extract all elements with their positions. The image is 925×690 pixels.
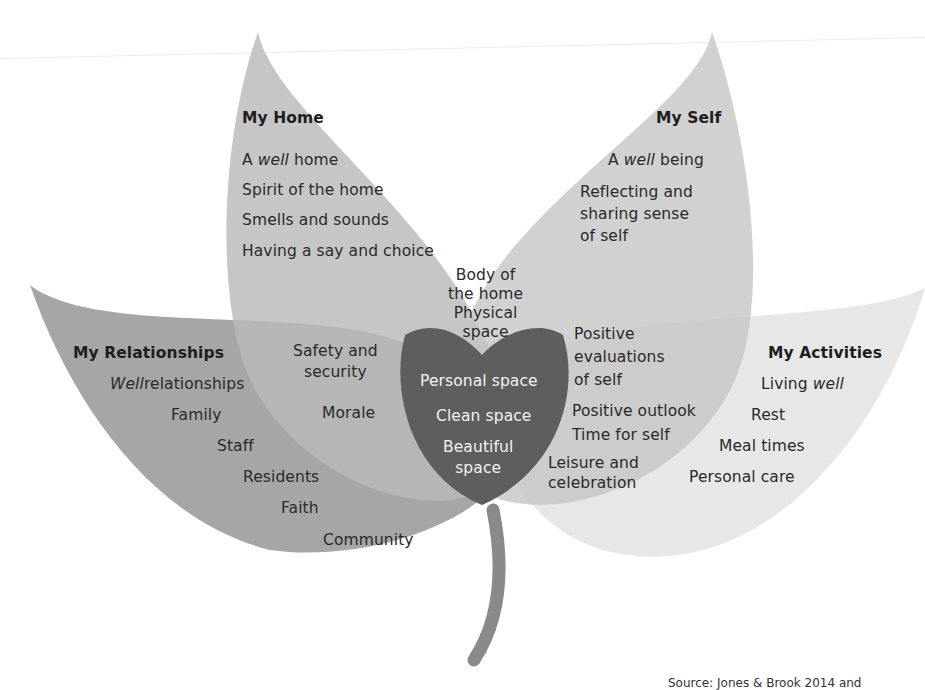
relationships-item: Community — [323, 531, 414, 549]
center-item: Personal space — [420, 372, 538, 390]
activities-item: Rest — [751, 406, 785, 424]
emphasis: well — [624, 151, 655, 169]
activities-item-living-well: Living well — [761, 375, 844, 393]
center-item: Beautiful space — [443, 437, 513, 479]
text: home — [289, 151, 338, 169]
emphasis: Well — [110, 375, 144, 393]
stem — [474, 510, 499, 660]
self-activities-overlap-text: Leisure and celebration — [548, 453, 639, 493]
relationships-item: Staff — [217, 437, 254, 455]
self-title: My Self — [656, 109, 721, 127]
self-activities-overlap-text: Positive evaluations of self — [574, 323, 665, 392]
text: relationships — [144, 375, 244, 393]
self-item: Reflecting and sharing sense of self — [580, 181, 693, 247]
text: Living — [761, 375, 813, 393]
text: A — [242, 151, 258, 169]
self-activities-overlap-text: Positive outlook — [572, 402, 696, 420]
home-item: Having a say and choice — [242, 242, 434, 260]
activities-item: Personal care — [689, 468, 795, 486]
text: being — [655, 151, 704, 169]
relationships-item-well: Wellrelationships — [110, 375, 244, 393]
emphasis: well — [258, 151, 289, 169]
relationships-item: Residents — [243, 468, 319, 486]
activities-item: Meal times — [719, 437, 805, 455]
activities-title: My Activities — [768, 344, 882, 362]
relationships-title: My Relationships — [73, 344, 224, 362]
home-item-well-home: A well home — [242, 151, 338, 169]
home-item: Spirit of the home — [242, 181, 384, 199]
home-title: My Home — [242, 109, 324, 127]
home-item: Smells and sounds — [242, 211, 389, 229]
home-self-overlap-text: Body of the home Physical space — [448, 266, 523, 342]
relationships-item: Faith — [281, 499, 319, 517]
relationships-item: Family — [171, 406, 221, 424]
home-relationships-overlap-text: Safety and security — [293, 341, 378, 383]
emphasis: well — [813, 375, 844, 393]
text: A — [608, 151, 624, 169]
source-caption: Source: Jones & Brook 2014 and — [668, 676, 861, 690]
self-activities-overlap-text: Time for self — [572, 426, 670, 444]
self-item-well-being: A well being — [608, 151, 704, 169]
center-item: Clean space — [436, 407, 532, 425]
home-relationships-overlap-text: Morale — [322, 404, 375, 422]
